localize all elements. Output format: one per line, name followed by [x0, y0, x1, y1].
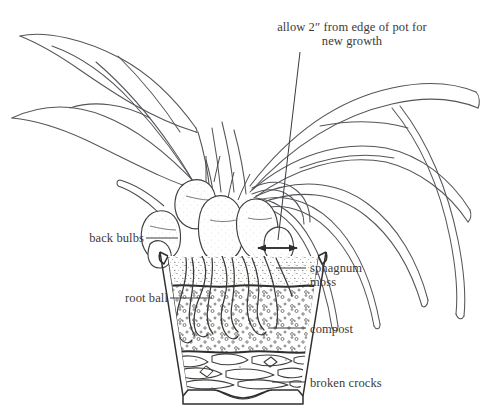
label-broken-crocks: broken crocks	[310, 376, 420, 390]
sphagnum-line-2: moss	[310, 275, 336, 289]
label-compost: compost	[310, 322, 402, 336]
sphagnum-line-1: sphagnum	[310, 261, 362, 275]
callout-label-new-growth: allow 2″ from edge of pot for new growth	[262, 20, 442, 48]
label-root-ball: root ball	[76, 291, 168, 305]
label-back-bulbs: back bulbs	[52, 231, 144, 245]
label-sphagnum-moss: sphagnum moss	[310, 261, 402, 289]
orchid-potting-illustration	[0, 0, 488, 410]
sphagnum-moss-layer	[160, 252, 330, 286]
callout-line-1: allow 2″ from edge of pot for	[277, 20, 427, 34]
callout-line-2: new growth	[322, 34, 382, 48]
diagram-canvas: allow 2″ from edge of pot for new growth…	[0, 0, 488, 410]
